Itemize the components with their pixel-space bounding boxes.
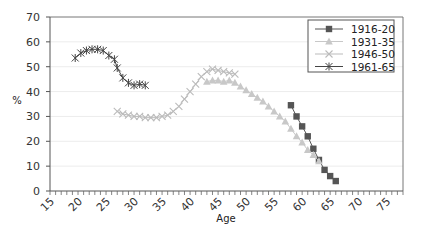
line-chart: 010203040506070 152025303540455055606570…	[0, 0, 423, 241]
y-tick-label: 10	[26, 160, 40, 173]
y-tick-label: 50	[26, 61, 40, 74]
x-axis: 15202530354045505560657075	[38, 191, 403, 214]
x-tick-label: 30	[122, 195, 141, 214]
x-tick-label: 50	[234, 195, 253, 214]
x-tick-label: 35	[150, 195, 169, 214]
series-1916-20	[288, 102, 339, 184]
series-1946-50	[114, 66, 239, 121]
x-tick-label: 45	[206, 195, 225, 214]
series-layer	[72, 45, 339, 184]
series-1961-65	[72, 45, 149, 89]
legend-label: 1916-20	[351, 23, 395, 35]
x-tick-label: 60	[290, 195, 309, 214]
legend-label: 1931-35	[351, 36, 395, 48]
x-tick-label: 20	[66, 195, 85, 214]
x-tick-label: 40	[178, 195, 197, 214]
y-tick-label: 60	[26, 36, 40, 49]
y-tick-label: 30	[26, 110, 40, 123]
x-tick-label: 65	[318, 195, 337, 214]
x-tick-label: 70	[346, 195, 365, 214]
x-axis-title: Age	[216, 213, 235, 224]
legend-label: 1946-50	[351, 48, 395, 60]
series-1931-35	[203, 76, 323, 164]
y-tick-label: 40	[26, 86, 40, 99]
y-tick-label: 70	[26, 11, 40, 24]
y-tick-label: 0	[33, 185, 40, 198]
y-axis-title: %	[12, 95, 22, 106]
y-axis: 010203040506070	[26, 11, 50, 198]
x-tick-label: 15	[38, 195, 57, 214]
x-tick-label: 75	[374, 195, 393, 214]
x-tick-label: 55	[262, 195, 281, 214]
y-tick-label: 20	[26, 135, 40, 148]
legend: 1916-201931-351946-501961-65	[308, 20, 395, 73]
x-tick-label: 25	[94, 195, 113, 214]
legend-label: 1961-65	[351, 61, 395, 73]
